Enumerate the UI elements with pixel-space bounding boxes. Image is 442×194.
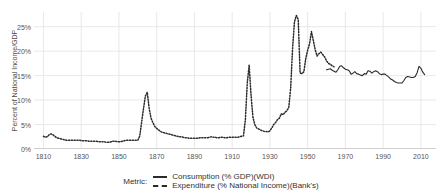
x-tick-label: 1970 — [338, 153, 354, 160]
gridlines — [34, 12, 436, 149]
x-tick-label: 1910 — [224, 153, 240, 160]
x-tick-label: 2010 — [413, 153, 429, 160]
legend-line-swatch — [153, 182, 167, 190]
x-tick-label: 1810 — [36, 153, 52, 160]
series-line — [43, 15, 334, 142]
y-tick-label: 25% — [17, 23, 31, 30]
y-tick-label: 5% — [21, 121, 31, 128]
x-tick-label: 1870 — [149, 153, 165, 160]
chart-legend: Metric: Consumption (% GDP)(WDI)Expendit… — [0, 172, 442, 190]
plot-svg — [34, 12, 436, 149]
x-tick-label: 1830 — [73, 153, 89, 160]
x-tick-label: 1950 — [300, 153, 316, 160]
chart-figure: Percent of National Income/GDP 0%5%10%15… — [0, 0, 442, 194]
y-tick-label: 20% — [17, 48, 31, 55]
data-series — [43, 15, 424, 142]
legend-label: Consumption (% GDP)(WDI) — [172, 172, 274, 181]
x-tick-label: 1850 — [111, 153, 127, 160]
y-tick-label: 15% — [17, 72, 31, 79]
legend-entry[interactable]: Expenditure (% National Income)(Bank's) — [153, 181, 318, 190]
x-tick-label: 1990 — [375, 153, 391, 160]
x-tick-label: 1930 — [262, 153, 278, 160]
x-tick-label: 1890 — [187, 153, 203, 160]
plot-area: 0%5%10%15%20%25% 18101830185018701890191… — [34, 12, 436, 149]
y-tick-label: 0% — [21, 146, 31, 153]
y-tick-label: 10% — [17, 97, 31, 104]
legend-title: Metric: — [123, 177, 147, 186]
legend-entry-list: Consumption (% GDP)(WDI)Expenditure (% N… — [153, 172, 318, 190]
legend-label: Expenditure (% National Income)(Bank's) — [172, 181, 318, 190]
legend-line-swatch — [153, 173, 167, 181]
legend-entry[interactable]: Consumption (% GDP)(WDI) — [153, 172, 304, 181]
series-line — [327, 66, 425, 83]
